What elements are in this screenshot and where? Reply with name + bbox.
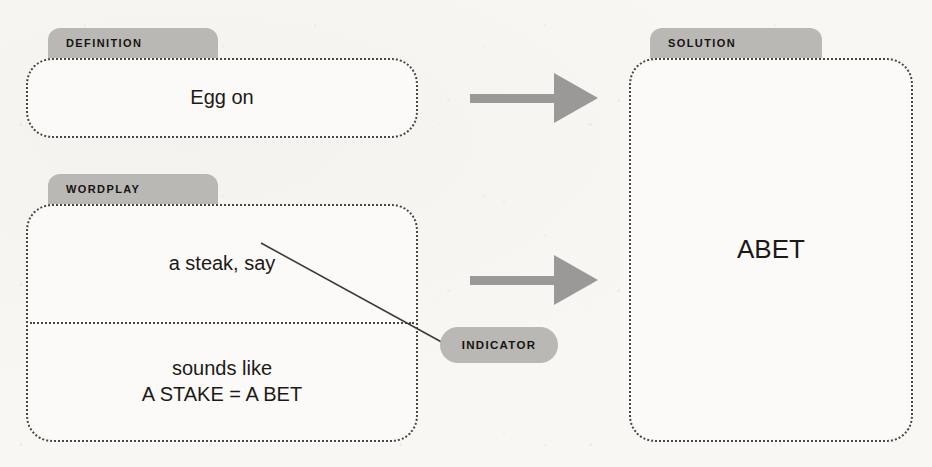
wordplay-explanation-line-2: A STAKE = A BET xyxy=(142,382,302,408)
wordplay-tab[interactable]: WORDPLAY xyxy=(48,174,218,204)
solution-tab[interactable]: SOLUTION xyxy=(650,28,822,58)
definition-panel: Egg on xyxy=(26,58,418,138)
wordplay-to-solution-arrow xyxy=(470,255,598,305)
wordplay-explanation-line-1: sounds like xyxy=(142,356,302,382)
solution-panel: ABET xyxy=(629,58,913,442)
wordplay-panel: a steak, say sounds like A STAKE = A BET xyxy=(26,204,418,442)
definition-tab[interactable]: DEFINITION xyxy=(48,28,218,58)
arrow-shaft xyxy=(470,276,556,285)
definition-tab-label: DEFINITION xyxy=(66,37,142,49)
wordplay-tab-label: WORDPLAY xyxy=(66,183,140,195)
wordplay-explanation: sounds like A STAKE = A BET xyxy=(28,324,416,440)
indicator-label: INDICATOR xyxy=(462,339,537,351)
solution-text: ABET xyxy=(631,60,911,440)
definition-to-solution-arrow xyxy=(470,73,598,123)
wordplay-fodder-text: a steak, say xyxy=(28,206,416,322)
solution-tab-label: SOLUTION xyxy=(668,37,736,49)
indicator-pill[interactable]: INDICATOR xyxy=(440,327,558,363)
definition-text: Egg on xyxy=(28,60,416,136)
cryptic-clue-diagram: DEFINITION Egg on WORDPLAY a steak, say … xyxy=(0,0,932,467)
arrow-shaft xyxy=(470,94,556,103)
arrow-head xyxy=(554,73,598,123)
arrow-head xyxy=(554,255,598,305)
